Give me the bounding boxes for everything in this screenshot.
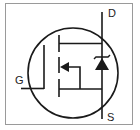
mosfet-symbol: D S G [0, 0, 140, 130]
source-label: S [107, 111, 114, 123]
gate [21, 45, 44, 89]
body-diode [94, 55, 110, 70]
body-arrow [60, 62, 80, 89]
drain-label: D [108, 7, 116, 19]
gate-label: G [15, 74, 24, 86]
arrow-icon [60, 62, 69, 72]
diode-triangle [95, 58, 109, 70]
package-circle [28, 28, 118, 118]
